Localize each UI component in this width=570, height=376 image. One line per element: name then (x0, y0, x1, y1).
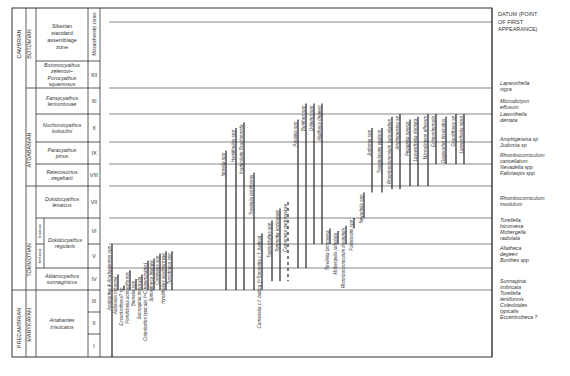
taxon-label: Doliutus spp (309, 105, 314, 131)
zone-name: lenaicus (52, 202, 71, 208)
taxon-label: Turcutheca spp (167, 253, 172, 285)
taxon-label: Rhombocorniculum cancellatum (387, 119, 392, 185)
zone-header-text: assemblage (47, 37, 77, 43)
zone-numeral: II (92, 320, 96, 326)
zone-name: Anabarites (49, 317, 75, 323)
zone-numeral: XI (91, 98, 97, 104)
zone-name: Retecoscinus (46, 169, 78, 175)
datum-label: Judomia sp (499, 142, 527, 148)
datum-label: Fallotaspis spp (500, 170, 535, 176)
datum-label: insolutum (500, 201, 523, 207)
taxon-label: Eccentrotheca? sp (119, 287, 124, 325)
datum-label: dentata (500, 117, 517, 123)
taxon-label: Pelagiella lorenzi (405, 121, 410, 157)
datum-header: OF FIRST (498, 19, 524, 25)
zone-table: CAMBRIANPRECAMBRIANBOTOMIANATDABANIANTOM… (12, 12, 100, 349)
zone-name: Dokidocyathus (45, 196, 79, 202)
zone-numeral: IX (91, 150, 97, 156)
zone-name: lermontovae (48, 101, 77, 107)
taxon-label: Nevadella spp (359, 194, 364, 224)
zone-numeral: I (93, 343, 95, 349)
zone-numeral: IV (91, 276, 97, 282)
zone-numeral: VIII (90, 172, 99, 178)
taxon-label: Gracilitheca sp (451, 116, 456, 147)
system-label-precambrian: PRECAMBRIAN (16, 308, 22, 348)
taxon-label: Spinulitheca billingsi (149, 259, 154, 301)
taxon-label: Mobergella radiolata (333, 233, 338, 275)
taxon-label: Torellella lentiformis (249, 174, 254, 215)
zone-name: Paracyathus (48, 147, 77, 153)
datum-label: nigra (500, 86, 512, 92)
zone-numeral: VII (91, 199, 98, 205)
taxon-label: Fallotaspis spp (349, 220, 354, 251)
taxon-label: Microdictyon effusum (423, 116, 428, 160)
datum-label: Eccentrotheca ? (500, 314, 538, 320)
datum-column: DATUM (POINTOF FIRSTAPPEARANCE)Lapworthe… (492, 8, 545, 357)
subzone-label: tortuosa (37, 248, 42, 263)
zone-name: zelenovi– (50, 68, 73, 74)
zone-name: pinus (55, 153, 69, 159)
zone-header-text: Siberian (52, 23, 72, 29)
zone-header-text: zone (56, 44, 68, 50)
zone-name: Botomocyathus (44, 62, 80, 68)
zone-name: Aldanocyathus (44, 273, 79, 279)
taxon-label: Lapworthella nigra (459, 116, 464, 154)
zone-name: trisulcatus (50, 324, 74, 330)
taxon-label: Rhombocorniculum insolutum (341, 228, 346, 289)
subzone-label: lenaicus (37, 224, 42, 239)
taxon-label: Hyolithellus spp (231, 130, 236, 163)
stage-label-tommotian: TOMMOTIAN (26, 243, 32, 277)
taxon-label: Hyolithellus vladimirovae (161, 253, 166, 304)
zone-name: Nochoroicyathus (43, 122, 82, 128)
datum-header: DATUM (POINT (498, 11, 538, 17)
taxon-label: Cobdellus spp (155, 255, 160, 285)
taxon-label: Amphigeisina sp (395, 116, 400, 151)
taxon-label: Triangulaspis vigilans (377, 129, 382, 173)
taxon-label: Coleoloides typicalis (=C.trigeminatus) (143, 262, 148, 341)
stage-label-atdabanian: ATDABANIAN (26, 133, 32, 168)
zone-name: sunnaginicus (47, 279, 78, 285)
zone-numeral: XII (91, 72, 98, 78)
taxon-label: Inarticulate Brachiopoda (239, 124, 244, 174)
taxon-label: Tommotia kozlowskii (275, 209, 280, 252)
taxon-label: Tugolochiltes spp (267, 222, 272, 258)
taxon-label: Fomitchella acinaciformis (125, 272, 130, 324)
zone-name: Fansycyathus (46, 95, 78, 101)
taxon-label: Igorella spp (221, 152, 226, 176)
taxon-label: Anabarites & Anabarilentus spp (107, 246, 112, 312)
zone-name: zegebarti (50, 175, 73, 181)
zone-numeral: X (92, 125, 96, 131)
zone-name: Dokidocyathus (48, 237, 82, 243)
stage-label-manykayan: MANYKAYAN (26, 308, 32, 342)
taxon-label: Camenella garbowskae (283, 204, 288, 252)
zone-name: Porocyathus (48, 75, 77, 81)
taxon-label: Judomia spp (367, 130, 372, 157)
taxon-label: Torellella biconvexa (325, 230, 330, 271)
taxon-label: Aldanella rozanovi (113, 276, 118, 316)
missarzhevsky-header: Missarzhevsky zones (92, 12, 97, 56)
taxon-label: Lapworthella dentata (413, 118, 418, 161)
stage-label-botomian: BOTOMIAN (26, 29, 32, 58)
zone-numeral: III (92, 298, 97, 304)
zone-name: squamosus (49, 81, 76, 87)
zone-name: kokoulini (52, 128, 73, 134)
taxon-label: Sunnaginia imbricata (137, 276, 142, 319)
taxon-label: Echinodermata (431, 116, 436, 147)
taxon-label: Bemella spp (131, 281, 136, 307)
datum-label: radiolata (500, 235, 520, 241)
datum-label: effusum (500, 104, 519, 110)
zone-header-text: standard (51, 30, 72, 36)
taxon-label: Burithes spp (301, 105, 306, 131)
taxon-label: Camenella c.f. baltica (=Tommotia c.f. b… (257, 235, 262, 328)
zone-numeral: V (92, 253, 96, 259)
system-label-cambrian: CAMBRIAN (16, 29, 22, 58)
datum-label: Burithes spp (500, 257, 529, 263)
zone-numeral: VI (91, 228, 97, 234)
taxon-ranges: Anabarites & Anabarilentus sppAldanella … (107, 104, 465, 357)
taxon-label: Paralilla spp (293, 121, 298, 146)
taxon-label: Dagaradus bisulcatus (441, 118, 446, 163)
datum-header: APPEARANCE) (498, 26, 538, 32)
zone-name: regularis (55, 243, 75, 249)
range-chart: CAMBRIANPRECAMBRIANBOTOMIANATDABANIANTOM… (0, 0, 570, 376)
taxon-label: Allatheca degeeri (317, 105, 322, 142)
